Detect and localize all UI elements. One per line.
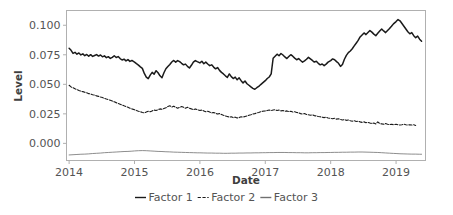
x-tick-label: 2014 [55, 166, 83, 179]
x-tick-label: 2016 [186, 166, 214, 179]
y-axis-ticks: 0.0000.0250.0500.0750.100 [29, 19, 67, 150]
chart-canvas: 0.0000.0250.0500.0750.100 20142015201620… [0, 0, 453, 215]
x-tick-label: 2019 [382, 166, 410, 179]
chart-legend: Factor 1Factor 2Factor 3 [135, 191, 318, 204]
axes-spines [67, 11, 426, 161]
series-line-factor-2 [69, 85, 416, 125]
plot-frame [67, 11, 426, 161]
y-tick-label: 0.050 [29, 78, 61, 91]
legend-label-factor-3: Factor 3 [274, 191, 318, 204]
x-tick-label: 2015 [121, 166, 149, 179]
y-tick-label: 0.100 [29, 19, 61, 32]
x-tick-label: 2018 [317, 166, 345, 179]
legend-label-factor-1: Factor 1 [148, 191, 192, 204]
y-tick-label: 0.000 [29, 137, 61, 150]
y-tick-label: 0.075 [29, 49, 61, 62]
x-axis-title: Date [232, 174, 260, 186]
series-line-factor-3 [69, 151, 421, 155]
y-tick-label: 0.025 [29, 108, 61, 121]
data-series-group [69, 20, 421, 155]
chart-figure: 0.0000.0250.0500.0750.100 20142015201620… [0, 0, 453, 215]
legend-label-factor-2: Factor 2 [211, 191, 255, 204]
series-line-factor-1 [69, 20, 421, 90]
y-axis-title: Level [12, 70, 24, 101]
